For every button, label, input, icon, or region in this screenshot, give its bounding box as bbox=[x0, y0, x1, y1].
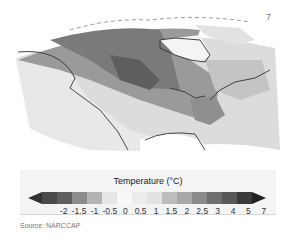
colorbar-segment bbox=[162, 192, 177, 204]
tick-label: 0.5 bbox=[133, 206, 148, 216]
source-caption: Source: NARCCAP bbox=[20, 222, 80, 229]
tick-label: -1.5 bbox=[71, 206, 86, 216]
colorbar bbox=[28, 192, 266, 204]
colorbar-segment bbox=[192, 192, 207, 204]
colorbar-segment bbox=[117, 192, 132, 204]
tick-label: 1.5 bbox=[164, 206, 179, 216]
colorbar-segment bbox=[177, 192, 192, 204]
colorbar-segment bbox=[57, 192, 72, 204]
colorbar-segment bbox=[237, 192, 252, 204]
tick-label: 1 bbox=[148, 206, 163, 216]
tick-label: 5 bbox=[241, 206, 256, 216]
tick-label: -2 bbox=[56, 206, 71, 216]
tick-label: 3 bbox=[210, 206, 225, 216]
tick-label: 2 bbox=[179, 206, 194, 216]
colorbar-segment bbox=[87, 192, 102, 204]
colorbar-min-arrow bbox=[28, 192, 42, 204]
temperature-map bbox=[0, 0, 293, 170]
colorbar-segment bbox=[132, 192, 147, 204]
colorbar-legend: Temperature (°C) -2 -1.5 -1 -0.5 0 0.5 1… bbox=[20, 170, 276, 215]
tick-label: 4 bbox=[225, 206, 240, 216]
tick-label: 2.5 bbox=[195, 206, 210, 216]
colorbar-max-arrow bbox=[252, 192, 266, 204]
colorbar-segment bbox=[147, 192, 162, 204]
colorbar-segment bbox=[102, 192, 117, 204]
tick-label: 0 bbox=[118, 206, 133, 216]
colorbar-segment bbox=[222, 192, 237, 204]
corner-label: 7 bbox=[266, 12, 271, 22]
colorbar-ticks: -2 -1.5 -1 -0.5 0 0.5 1 1.5 2 2.5 3 4 5 … bbox=[56, 206, 271, 216]
colorbar-segment bbox=[42, 192, 57, 204]
colorbar-segment bbox=[72, 192, 87, 204]
tick-label: -0.5 bbox=[102, 206, 117, 216]
tick-label: 7 bbox=[256, 206, 271, 216]
colorbar-segment bbox=[207, 192, 222, 204]
tick-label: -1 bbox=[87, 206, 102, 216]
legend-title: Temperature (°C) bbox=[20, 176, 276, 186]
